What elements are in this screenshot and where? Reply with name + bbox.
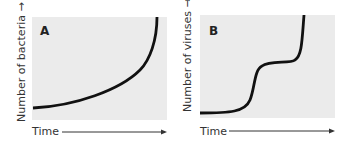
growth-curve-b	[0, 0, 346, 145]
